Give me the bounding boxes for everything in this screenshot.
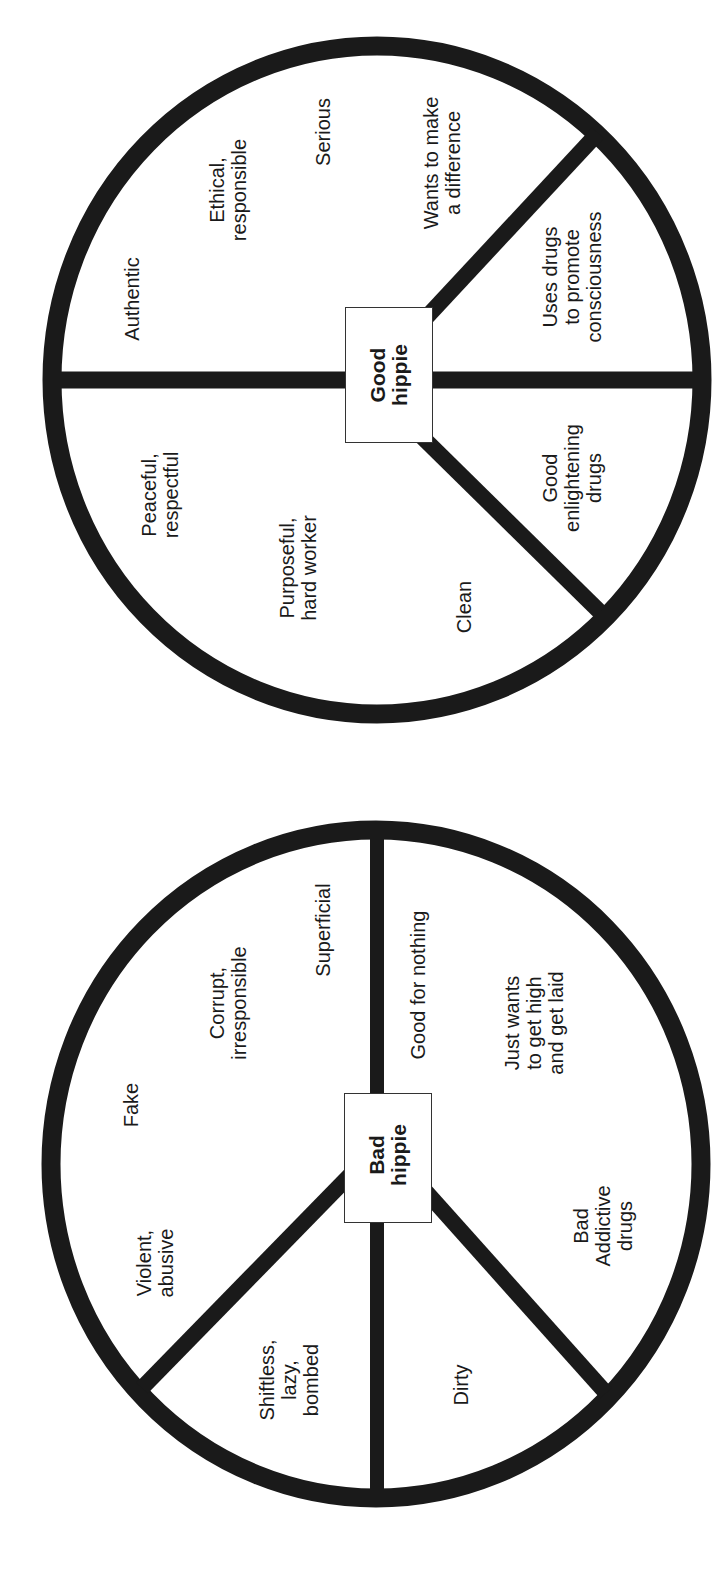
- label-uses-drugs: Uses drugs to promote consciousness: [539, 211, 605, 342]
- label-corrupt: Corrupt, irresponsible: [206, 946, 250, 1059]
- label-peaceful: Peaceful, respectful: [138, 452, 182, 539]
- good-hippie-center-label: Good hippie: [367, 344, 411, 406]
- label-superficial: Superficial: [312, 883, 334, 976]
- label-authentic: Authentic: [121, 257, 143, 340]
- label-dirty: Dirty: [450, 1364, 472, 1405]
- label-violent: Violent, abusive: [133, 1229, 177, 1298]
- bad-hippie-center-label: Bad hippie: [366, 1124, 410, 1186]
- label-good-for-nothing: Good for nothing: [407, 911, 429, 1060]
- label-fake: Fake: [120, 1083, 142, 1127]
- label-just-wants: Just wants to get high and get laid: [501, 971, 567, 1074]
- label-clean: Clean: [453, 581, 475, 633]
- label-serious: Serious: [312, 98, 334, 166]
- label-ethical: Ethical, responsible: [206, 139, 250, 241]
- label-bad-drugs: Bad Addictive drugs: [570, 1185, 636, 1266]
- label-good-drugs: Good enlightening drugs: [539, 424, 605, 532]
- label-shiftless: Shiftless, lazy, bombed: [256, 1339, 322, 1420]
- label-purposeful: Purposeful, hard worker: [276, 515, 320, 621]
- label-wants-difference: Wants to make a difference: [420, 97, 464, 230]
- diagram-canvas: [0, 0, 721, 1569]
